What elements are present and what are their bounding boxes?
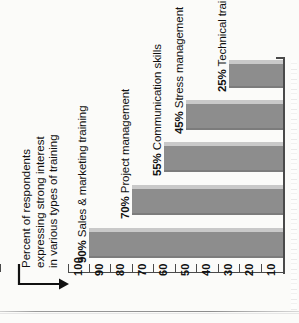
axis-tick-label-90: 90: [93, 263, 105, 276]
bar-shadow: [229, 86, 283, 88]
page-bottom-rule: [0, 311, 299, 312]
bar-label-technical-training: 25% Technical training: [216, 0, 228, 92]
bar-chart: 100 90 80 70 60 50 40 30 20 10 90% Sales…: [0, 0, 299, 323]
axis-tick-30: [218, 264, 219, 272]
axis-tick-20: [239, 264, 240, 272]
page-bottom-rule-secondary: [0, 313, 299, 314]
bar-sales-marketing-training: [89, 228, 283, 258]
bar-highlight: [164, 142, 283, 146]
axis-tick-label-30: 30: [222, 263, 234, 276]
bar-project-management: [132, 185, 283, 215]
bar-label-project-management: 70% Project management: [119, 89, 131, 219]
bar-label-stress-management: 45% Stress management: [173, 7, 185, 134]
chart-title: Percent of respondents expressing strong…: [20, 134, 61, 268]
bar-label-sales-marketing-training: 90% Sales & marketing training: [76, 106, 88, 263]
bar-shadow: [132, 213, 283, 215]
chart-title-line-3: in various types of training: [47, 134, 61, 268]
axis-tick-label-20: 20: [243, 263, 255, 276]
axis-tick-label-10: 10: [265, 263, 277, 276]
bar-label-communication-skills: 55% Communication skills: [151, 44, 163, 176]
chart-title-line-1: Percent of respondents: [20, 134, 34, 268]
axis-tick-60: [153, 264, 154, 272]
axis-tick-label-70: 70: [136, 263, 148, 276]
bar-shadow: [89, 256, 283, 258]
axis-tick-50: [175, 264, 176, 272]
axis-tick-label-40: 40: [200, 263, 212, 276]
title-pointer-arrow-icon: [16, 262, 72, 292]
bar-highlight: [89, 228, 283, 232]
axis-tick-label-60: 60: [157, 263, 169, 276]
axis-tick-10: [261, 264, 262, 272]
axis-tick-90: [89, 264, 90, 272]
value-axis-baseline-cap: [276, 57, 284, 59]
axis-tick-40: [196, 264, 197, 272]
value-axis-baseline: [283, 57, 285, 274]
bar-highlight: [186, 100, 283, 104]
axis-tick-80: [110, 264, 111, 272]
bar-communication-skills: [164, 142, 283, 172]
bar-shadow: [186, 128, 283, 130]
axis-tick-label-50: 50: [179, 263, 191, 276]
bar-highlight: [229, 60, 283, 64]
bar-stress-management: [186, 100, 283, 130]
bar-shadow: [164, 170, 283, 172]
axis-tick-label-80: 80: [114, 263, 126, 276]
bar-technical-training: [229, 60, 283, 88]
axis-tick-70: [132, 264, 133, 272]
chart-title-line-2: expressing strong interest: [34, 134, 48, 268]
bar-highlight: [132, 185, 283, 189]
